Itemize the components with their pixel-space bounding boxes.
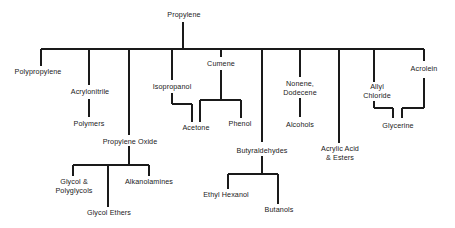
node-butyraldehydes: Butyraldehydes — [237, 146, 288, 155]
node-acrylic-line2: & Esters — [321, 153, 359, 162]
node-polymers: Polymers — [74, 119, 105, 128]
node-glycol-polyglycols-line1: Glycol & — [55, 177, 92, 186]
node-allyl-line2: Chloride — [363, 91, 391, 100]
node-acrylic-line1: Acrylic Acid — [321, 144, 359, 153]
node-acrylic-acid-esters: Acrylic Acid & Esters — [321, 144, 359, 162]
node-alcohols: Alcohols — [286, 120, 314, 129]
node-butanols: Butanols — [265, 205, 294, 214]
node-nonene-line1: Nonene, — [283, 79, 317, 88]
node-cumene: Cumene — [207, 59, 235, 68]
node-glycerine: Glycerine — [382, 121, 413, 130]
node-allyl-line1: Allyl — [363, 82, 391, 91]
propylene-derivatives-diagram: Propylene Polypropylene Acrylonitrile Po… — [0, 0, 455, 228]
node-allyl-chloride: Allyl Chloride — [363, 82, 391, 100]
node-alkanolamines: Alkanolamines — [125, 177, 173, 186]
node-nonene-dodecene: Nonene, Dodecene — [283, 79, 317, 97]
node-glycol-ethers: Glycol Ethers — [87, 208, 131, 217]
node-phenol: Phenol — [229, 119, 252, 128]
node-acrylonitrile: Acrylonitrile — [71, 87, 109, 96]
node-ethyl-hexanol: Ethyl Hexanol — [203, 190, 249, 199]
node-acrolein: Acrolein — [411, 64, 438, 73]
node-isopropanol: Isopropanol — [153, 82, 192, 91]
node-propylene: Propylene — [167, 10, 200, 19]
node-polypropylene: Polypropylene — [15, 67, 62, 76]
node-glycol-polyglycols-line2: Polyglycols — [55, 186, 92, 195]
node-propylene-oxide: Propylene Oxide — [103, 137, 158, 146]
node-nonene-line2: Dodecene — [283, 88, 317, 97]
node-glycol-polyglycols: Glycol & Polyglycols — [55, 177, 92, 195]
node-acetone: Acetone — [182, 123, 209, 132]
